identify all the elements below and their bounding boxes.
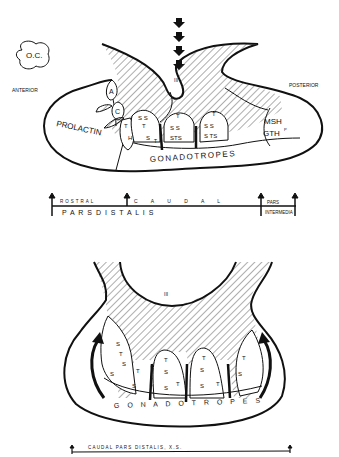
gth-superscript: P: [284, 127, 287, 132]
rostral-label: ROSTRAL: [60, 199, 95, 204]
pars-distalis-label: P A R S D I S T A L I S: [62, 209, 154, 216]
lobe-letter: S TS: [204, 133, 217, 139]
msh-label: MSH: [264, 117, 282, 126]
lobe-letter: S: [200, 367, 204, 373]
intermedia-label: INTERMEDIA: [265, 210, 293, 215]
lobe-letter: S S: [138, 115, 148, 121]
acth-cell-label: A: [109, 88, 114, 95]
lobe-letter: STS: [170, 135, 182, 141]
pars-label: PARS: [267, 200, 279, 205]
lobe-letter: S: [110, 371, 114, 377]
lobe-letter: T: [164, 357, 168, 363]
pituitary-diagram: III O.C. ANTERIOR POSTERIOR A C T H S S …: [0, 0, 339, 457]
lobe-letter: S: [146, 135, 150, 141]
oc-label: O.C.: [26, 51, 42, 60]
lobe-letter: T: [216, 381, 220, 387]
lobe-letter: T: [242, 355, 246, 361]
lobe-letter: S: [164, 385, 168, 391]
lobe-letter: T: [176, 381, 180, 387]
lobe-letter: S: [122, 361, 126, 367]
lobe-letter: S: [200, 383, 204, 389]
lobe-letter: S S: [204, 123, 214, 129]
caudal-pars-distalis-caption: CAUDAL PARS DISTALIS, X.S.: [88, 445, 182, 450]
lobe-letter: T: [212, 111, 216, 117]
lobe-letter: T: [124, 123, 128, 129]
lobe-letter: S: [238, 371, 242, 377]
gonadotropes-label-bottom: G O N A D O T R O P E S: [114, 397, 263, 409]
gonadotropes-label-top: GONADOTROPES: [150, 149, 237, 164]
prolactin-label: PROLACTIN: [56, 119, 103, 137]
lobe-letter: T: [119, 351, 123, 357]
lobe-letter: T: [154, 138, 157, 144]
third-ventricle-label-bottom: III: [164, 291, 168, 297]
lobe-letter: T: [176, 113, 180, 119]
third-ventricle-label: III: [174, 77, 178, 83]
lobe-letter: S S: [170, 125, 180, 131]
lobe-letter: H: [128, 135, 132, 141]
lobe-letter: S: [164, 369, 168, 375]
lobe-letter: S: [132, 383, 136, 389]
lobe-letter: S: [116, 341, 120, 347]
lobe-letter: T: [202, 355, 206, 361]
c-cell-label: C: [115, 108, 120, 115]
lobe-letter: T: [142, 123, 146, 129]
posterior-label: POSTERIOR: [289, 82, 319, 88]
caudal-label: C A U D A L: [134, 198, 226, 204]
anterior-label: ANTERIOR: [12, 87, 38, 93]
gth-label: GTH: [263, 129, 280, 138]
lobe-letter: T: [136, 368, 140, 374]
